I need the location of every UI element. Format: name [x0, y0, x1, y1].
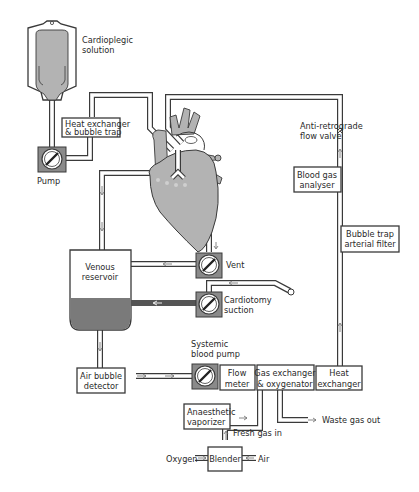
blood-gas-label-2: analyser: [299, 180, 335, 190]
pump-label: Pump: [37, 176, 60, 186]
anti-retrograde-label-2: flow valve: [300, 131, 342, 141]
heart-icon: [149, 108, 222, 252]
hx-bubble-trap-label-2: & bubble trap: [65, 127, 121, 137]
vaporizer-label-2: vaporizer: [187, 417, 226, 427]
systemic-pump-label-1: Systemic: [191, 339, 228, 349]
cardioplegic-solution-bag: [28, 21, 76, 100]
cardioplegic-label-1: Cardioplegic: [82, 35, 133, 45]
air-bubble-label-2: detector: [84, 381, 119, 391]
systemic-pump-icon: [192, 364, 218, 389]
cardiotomy-label-1: Cardiotomy: [224, 295, 272, 305]
vaporizer-label-1: Anaesthetic: [187, 407, 236, 417]
flow-arrow: [239, 416, 247, 420]
flow-meter-label-1: Flow: [228, 368, 247, 378]
fresh-gas-label: Fresh gas in: [233, 428, 282, 438]
vent-pump-icon: [196, 253, 222, 278]
waste-gas-label: Waste gas out: [322, 415, 381, 425]
bubble-trap-label-2: arterial filter: [344, 239, 396, 249]
pump-icon: [38, 147, 66, 172]
flow-meter-label-2: meter: [225, 379, 250, 389]
air-bubble-label-1: Air bubble: [80, 371, 122, 381]
blender-label: Blender: [209, 454, 241, 464]
cardioplegic-label-2: solution: [82, 45, 114, 55]
heat-exchanger-label-2: exchanger: [317, 379, 361, 389]
oxygen-label: Oxygen: [166, 454, 198, 464]
suction-tip: [288, 289, 294, 295]
bubble-trap-label-1: Bubble trap: [346, 229, 394, 239]
cardiopulmonary-bypass-diagram: Cardioplegic solution Heat exchanger & b…: [0, 0, 419, 492]
cardiotomy-label-2: suction: [224, 305, 254, 315]
flow-arrow: [308, 418, 316, 422]
cardiotomy-pump-icon: [196, 292, 222, 317]
vent-label: Vent: [226, 260, 245, 270]
venous-reservoir-label-2: reservoir: [82, 272, 119, 282]
blood-gas-label-1: Blood gas: [297, 170, 337, 180]
venous-reservoir-label-1: Venous: [85, 262, 115, 272]
air-label: Air: [258, 454, 270, 464]
systemic-pump-label-2: blood pump: [191, 349, 240, 359]
anti-retrograde-label-1: Anti-retrograde: [300, 121, 363, 131]
heat-exchanger-label-1: Heat: [329, 368, 349, 378]
gas-exchanger-label-1: Gas exchanger: [254, 368, 316, 378]
gas-exchanger-label-2: & oxygenator: [257, 379, 313, 389]
flow-arrow: [214, 242, 218, 249]
suction-line: [131, 300, 197, 306]
